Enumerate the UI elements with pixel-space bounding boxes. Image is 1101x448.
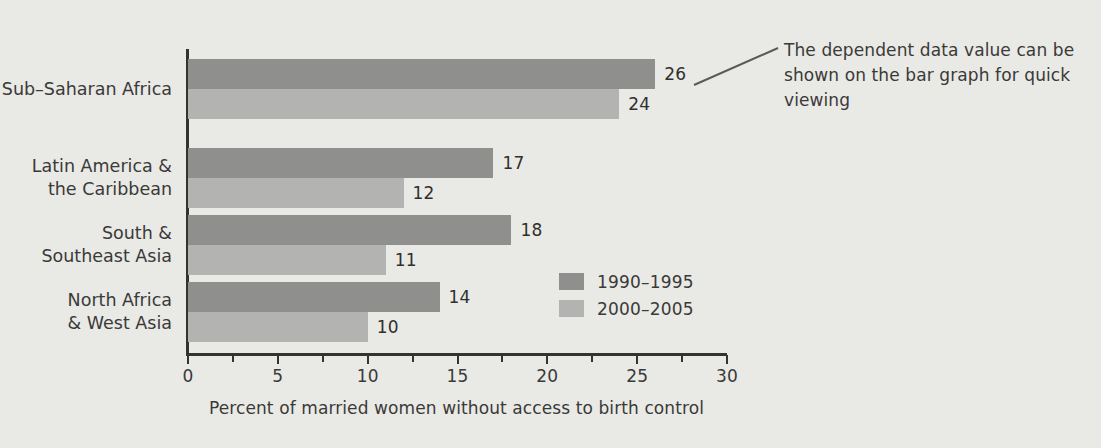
x-tick-minor — [501, 355, 503, 362]
x-tick-major — [187, 355, 189, 364]
callout-leader-line-icon — [690, 40, 785, 90]
x-tick-major — [546, 355, 548, 364]
bar-value-label: 17 — [502, 153, 524, 173]
x-tick-major — [726, 355, 728, 364]
y-axis-category-label: Latin America &the Caribbean — [0, 155, 172, 201]
y-axis-category-label: South &Southeast Asia — [0, 222, 172, 268]
bar-value-label: 11 — [395, 250, 417, 270]
x-tick-major — [457, 355, 459, 364]
bar — [188, 59, 655, 89]
legend-label: 1990–1995 — [597, 272, 694, 292]
x-tick-major — [277, 355, 279, 364]
x-tick-label: 5 — [272, 366, 283, 386]
bar-value-label: 14 — [449, 287, 471, 307]
legend-item: 1990–1995 — [559, 268, 694, 295]
bar-value-label: 18 — [520, 220, 542, 240]
bar — [188, 312, 368, 342]
legend-item: 2000–2005 — [559, 295, 694, 322]
x-tick-minor — [232, 355, 234, 362]
bar — [188, 245, 386, 275]
callout-annotation-text: The dependent data value can be shown on… — [784, 38, 1084, 113]
x-tick-minor — [322, 355, 324, 362]
category-label-line: Sub–Saharan Africa — [0, 78, 172, 101]
x-tick-label: 0 — [182, 366, 193, 386]
bar-chart-figure: 051015202530 Percent of married women wi… — [0, 0, 1101, 448]
category-label-line: South & — [0, 222, 172, 245]
x-tick-label: 10 — [357, 366, 379, 386]
x-tick-major — [636, 355, 638, 364]
bar — [188, 282, 440, 312]
x-tick-label: 25 — [626, 366, 648, 386]
category-label-line: Southeast Asia — [0, 245, 172, 268]
category-label-line: & West Asia — [0, 312, 172, 335]
y-axis-category-label: Sub–Saharan Africa — [0, 78, 172, 101]
bar-value-label: 26 — [664, 64, 686, 84]
bar — [188, 148, 493, 178]
bar — [188, 215, 511, 245]
x-tick-minor — [681, 355, 683, 362]
legend-swatch-icon — [559, 300, 584, 317]
category-label-line: Latin America & — [0, 155, 172, 178]
legend-swatch-icon — [559, 273, 584, 290]
y-axis-category-label: North Africa& West Asia — [0, 289, 172, 335]
bar-value-label: 24 — [628, 94, 650, 114]
category-label-line: North Africa — [0, 289, 172, 312]
legend-label: 2000–2005 — [597, 299, 694, 319]
x-tick-label: 20 — [536, 366, 558, 386]
x-tick-minor — [412, 355, 414, 362]
x-tick-major — [367, 355, 369, 364]
x-tick-minor — [591, 355, 593, 362]
x-tick-label: 30 — [716, 366, 738, 386]
x-tick-label: 15 — [446, 366, 468, 386]
chart-legend: 1990–19952000–2005 — [559, 268, 694, 322]
bar — [188, 89, 619, 119]
bar-value-label: 10 — [377, 317, 399, 337]
bar — [188, 178, 404, 208]
bar-value-label: 12 — [413, 183, 435, 203]
category-label-line: the Caribbean — [0, 178, 172, 201]
x-axis-title: Percent of married women without access … — [186, 398, 727, 418]
